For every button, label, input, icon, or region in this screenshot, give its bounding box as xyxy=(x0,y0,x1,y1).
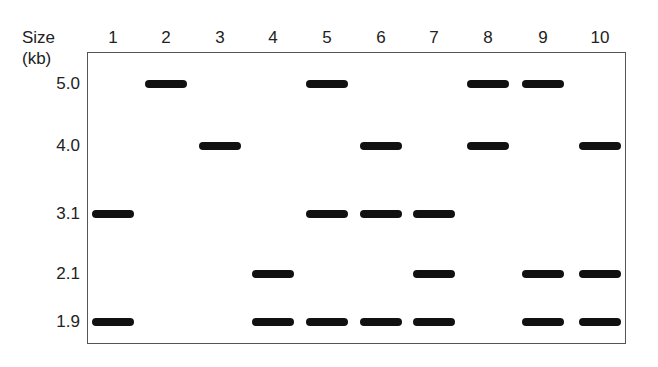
band-lane5-1-9kb xyxy=(306,318,348,326)
axis-title-units: (kb) xyxy=(22,49,51,69)
band-lane2-5-0kb xyxy=(145,80,187,88)
axis-title-size: Size xyxy=(22,28,55,48)
size-label-2-1: 2.1 xyxy=(20,264,80,284)
band-lane9-1-9kb xyxy=(522,318,564,326)
size-label-4-0: 4.0 xyxy=(20,136,80,156)
lane-label-4: 4 xyxy=(253,28,293,48)
lane-label-9: 9 xyxy=(523,28,563,48)
band-lane7-2-1kb xyxy=(413,270,455,278)
lane-label-5: 5 xyxy=(307,28,347,48)
band-lane4-1-9kb xyxy=(252,318,294,326)
lane-label-6: 6 xyxy=(361,28,401,48)
band-lane3-4-0kb xyxy=(199,142,241,150)
lane-label-1: 1 xyxy=(93,28,133,48)
band-lane8-5-0kb xyxy=(467,80,509,88)
band-lane7-1-9kb xyxy=(413,318,455,326)
lane-label-10: 10 xyxy=(580,28,620,48)
lane-label-7: 7 xyxy=(414,28,454,48)
band-lane8-4-0kb xyxy=(467,142,509,150)
band-lane6-4-0kb xyxy=(360,142,402,150)
band-lane5-5-0kb xyxy=(306,80,348,88)
lane-label-8: 8 xyxy=(468,28,508,48)
size-label-3-1: 3.1 xyxy=(20,204,80,224)
band-lane7-3-1kb xyxy=(413,210,455,218)
band-lane10-2-1kb xyxy=(579,270,621,278)
size-label-1-9: 1.9 xyxy=(20,312,80,332)
band-lane10-1-9kb xyxy=(579,318,621,326)
band-lane1-1-9kb xyxy=(92,318,134,326)
band-lane10-4-0kb xyxy=(579,142,621,150)
band-lane9-5-0kb xyxy=(522,80,564,88)
band-lane6-1-9kb xyxy=(360,318,402,326)
size-label-5-0: 5.0 xyxy=(20,74,80,94)
band-lane5-3-1kb xyxy=(306,210,348,218)
lane-label-2: 2 xyxy=(146,28,186,48)
band-lane6-3-1kb xyxy=(360,210,402,218)
band-lane9-2-1kb xyxy=(522,270,564,278)
lane-label-3: 3 xyxy=(200,28,240,48)
band-lane4-2-1kb xyxy=(252,270,294,278)
gel-frame xyxy=(87,52,626,344)
band-lane1-3-1kb xyxy=(92,210,134,218)
